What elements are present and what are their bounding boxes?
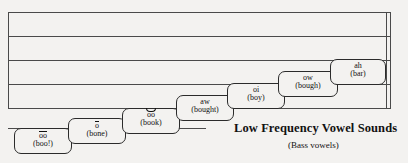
figure-title: Low Frequency Vowel Sounds xyxy=(234,121,397,136)
vowel-word-boy: (boy) xyxy=(228,94,284,102)
vowel-box-book[interactable]: oo (book) xyxy=(122,108,180,134)
staff-barline-left xyxy=(8,12,9,109)
vowel-box-boy[interactable]: oi (boy) xyxy=(227,83,285,109)
staff-barline-right-thin xyxy=(386,12,387,109)
vowel-word-bough: (bough) xyxy=(279,82,337,90)
staff-line-1 xyxy=(8,12,391,13)
vowel-chart-figure: oo (boo!) o (bone) oo (book) aw (bought)… xyxy=(0,0,408,163)
figure-subtitle: (Bass vowels) xyxy=(288,140,339,150)
vowel-word-book: (book) xyxy=(123,119,179,127)
vowel-word-bone: (bone) xyxy=(69,130,125,138)
vowel-word-boo: (boo!) xyxy=(15,140,71,148)
vowel-word-bought: (bought) xyxy=(177,106,233,114)
vowel-box-boo[interactable]: oo (boo!) xyxy=(14,128,72,154)
staff-barline-right-thick xyxy=(390,12,391,109)
staff-line-2 xyxy=(8,36,391,37)
vowel-box-bough[interactable]: ow (bough) xyxy=(278,71,338,97)
vowel-word-bar: (bar) xyxy=(331,70,385,78)
vowel-box-bar[interactable]: ah (bar) xyxy=(330,59,386,85)
vowel-box-bought[interactable]: aw (bought) xyxy=(176,95,234,121)
vowel-box-bone[interactable]: o (bone) xyxy=(68,118,126,144)
vowel-symbol-book: oo xyxy=(123,111,179,119)
